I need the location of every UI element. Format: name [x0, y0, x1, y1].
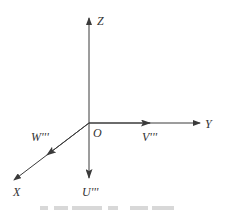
caption-fragment — [40, 206, 174, 210]
v-vector-label: V''' — [142, 130, 157, 144]
x-axis-label: X — [12, 185, 21, 199]
u-vector-label: U''' — [82, 185, 99, 199]
y-axis-label: Y — [205, 117, 213, 131]
w-vector-arrow — [47, 123, 89, 155]
coordinate-diagram: Z Y V''' X W''' U''' O — [0, 0, 226, 210]
z-axis-label: Z — [97, 14, 104, 28]
origin-label: O — [93, 126, 102, 140]
w-vector-label: W''' — [31, 130, 49, 144]
